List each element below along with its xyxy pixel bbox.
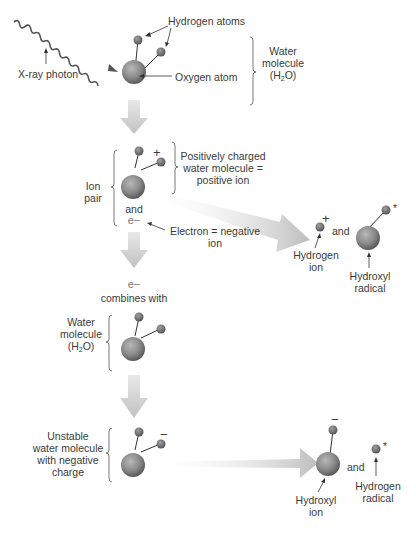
ion-pair-brace — [111, 150, 117, 226]
radical-star: * — [393, 202, 397, 214]
hydrogen-atom-icon — [134, 36, 143, 45]
oxygen-atom-icon — [122, 60, 146, 84]
oxygen-atom-label: Oxygen atom — [175, 71, 237, 83]
and-label: and — [332, 225, 350, 237]
hydrogen-ion-label: Hydrogen ion — [288, 249, 344, 273]
down-arrow-icon — [120, 375, 148, 418]
electron-negative-ion-label: Electron = negative ion — [165, 225, 265, 249]
oxygen-atom-icon — [121, 175, 145, 199]
brace — [250, 37, 256, 105]
water-molecule-2 — [121, 313, 166, 362]
and-label: and — [347, 461, 365, 473]
hydroxyl-ion-label: Hydroxyl ion — [290, 494, 342, 518]
water-molecule-label-1: Water molecule (H2O) — [258, 45, 308, 81]
brace — [106, 428, 112, 482]
decomposition-arrow — [150, 448, 318, 478]
negative-charge-sign: − — [160, 429, 168, 441]
hydrogen-atom-icon — [135, 313, 144, 322]
unstable-water-molecule — [121, 428, 166, 478]
water-molecule-label-2: Water molecule (H2O) — [56, 316, 106, 352]
hydrogen-atom-icon — [157, 48, 166, 57]
positive-charge-sign: + — [153, 147, 161, 159]
hydrogen-atom-icon — [157, 325, 166, 334]
down-arrow-icon — [120, 232, 148, 268]
electron-symbol: e− — [110, 278, 158, 290]
hydroxyl-radical — [356, 206, 391, 251]
hydrogen-radical-label: Hydrogen radical — [350, 480, 406, 504]
x-ray-photon-label: X-ray photon — [18, 68, 78, 80]
oxygen-atom-icon — [316, 452, 340, 476]
combines-with-label: combines with — [94, 292, 174, 304]
hydroxyl-ion-minus-sign: − — [331, 414, 339, 426]
hydrogen-atom-icon — [382, 206, 391, 215]
hydroxyl-ion — [316, 426, 340, 477]
down-arrow-icon — [120, 100, 148, 134]
unstable-molecule-label: Unstable water molecule with negative ch… — [30, 430, 106, 478]
oxygen-atom-icon — [121, 337, 145, 361]
hydrogen-atom-icon — [135, 147, 144, 156]
hydrogen-radical-icon — [372, 445, 381, 454]
hydrogen-atom-icon — [135, 428, 144, 437]
positive-ion-label: Positively charged water molecule = posi… — [178, 150, 268, 186]
hydroxyl-radical-label: Hydroxyl radical — [344, 270, 396, 294]
electron-symbol: e− — [120, 214, 148, 226]
oxygen-atom-icon — [121, 453, 145, 477]
brace — [106, 315, 112, 371]
ion-pair-label: Ion pair — [80, 180, 106, 204]
radical-star: * — [383, 440, 387, 452]
oxygen-atom-icon — [356, 226, 380, 250]
hydrogen-atoms-label: Hydrogen atoms — [168, 15, 245, 27]
hydrogen-ion-plus-sign: + — [322, 213, 330, 225]
